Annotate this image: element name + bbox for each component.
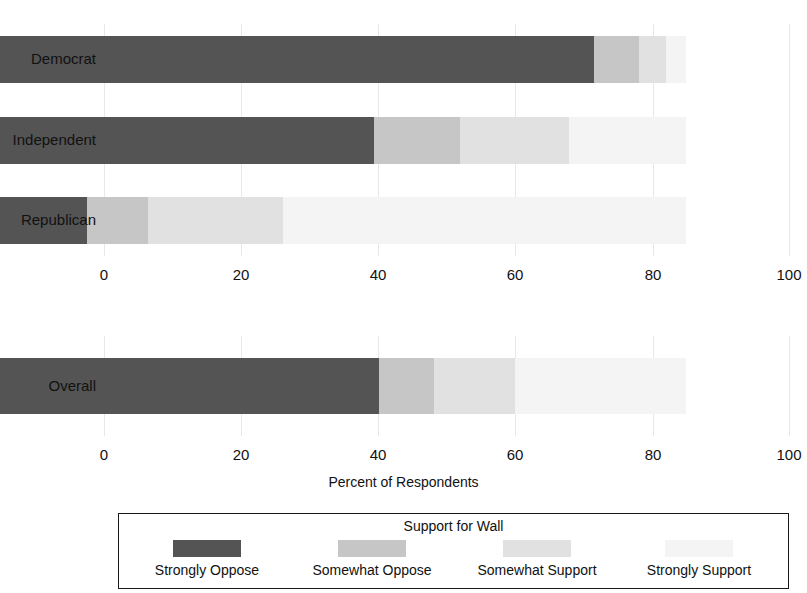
legend-item-label: Strongly Support — [619, 562, 779, 578]
chart-page: { "chart_data": { "type": "bar", "orient… — [0, 0, 807, 593]
bar-segment-strongly-support — [666, 36, 686, 83]
bar-segment-somewhat-support — [460, 117, 570, 164]
legend-item-label: Somewhat Oppose — [292, 562, 452, 578]
legend-swatch-icon — [173, 540, 241, 557]
legend-item-label: Somewhat Support — [457, 562, 617, 578]
x-tick-label: 100 — [776, 446, 801, 463]
x-tick-label: 60 — [507, 266, 524, 283]
x-tick-label: 0 — [100, 266, 108, 283]
legend-item-strongly-support[interactable]: Strongly Support — [619, 540, 779, 578]
x-tick-label: 60 — [507, 446, 524, 463]
x-tick-label: 0 — [100, 446, 108, 463]
bar-segment-strongly-support — [283, 197, 686, 244]
bar-row-republican — [0, 197, 686, 244]
bar-row-democrat — [0, 36, 686, 83]
x-tick-label: 100 — [776, 266, 801, 283]
category-label-overall: Overall — [0, 378, 96, 393]
x-tick-label: 40 — [370, 446, 387, 463]
legend-title: Support for Wall — [119, 518, 788, 534]
x-tick-label: 20 — [233, 446, 250, 463]
x-axis-top: 0 20 40 60 80 100 — [0, 266, 807, 290]
category-label-independent: Independent — [0, 132, 96, 147]
gridline — [789, 24, 790, 256]
x-axis-bottom: 0 20 40 60 80 100 — [0, 446, 807, 470]
x-tick-label: 80 — [645, 446, 662, 463]
legend-item-somewhat-support[interactable]: Somewhat Support — [457, 540, 617, 578]
chart-panel-overall: Overall — [0, 336, 807, 436]
bar-segment-somewhat-oppose — [87, 197, 148, 244]
bar-segment-strongly-support — [569, 117, 686, 164]
legend-swatch-icon — [338, 540, 406, 557]
bar-segment-somewhat-support — [639, 36, 666, 83]
legend: Support for Wall Strongly Oppose Somewha… — [118, 513, 789, 589]
bar-segment-strongly-support — [515, 358, 686, 414]
x-axis-title: Percent of Respondents — [0, 474, 807, 490]
bar-row-overall — [0, 358, 686, 414]
x-tick-label: 80 — [645, 266, 662, 283]
bar-segment-somewhat-support — [434, 358, 515, 414]
category-label-democrat: Democrat — [0, 51, 96, 66]
legend-swatch-icon — [665, 540, 733, 557]
x-tick-label: 20 — [233, 266, 250, 283]
bar-segment-somewhat-oppose — [379, 358, 435, 414]
x-tick-label: 40 — [370, 266, 387, 283]
gridline — [789, 336, 790, 436]
bar-row-independent — [0, 117, 686, 164]
bar-segment-somewhat-oppose — [374, 117, 460, 164]
legend-item-label: Strongly Oppose — [127, 562, 287, 578]
category-label-republican: Republican — [0, 212, 96, 227]
legend-item-strongly-oppose[interactable]: Strongly Oppose — [127, 540, 287, 578]
bar-segment-somewhat-support — [148, 197, 283, 244]
legend-swatch-icon — [503, 540, 571, 557]
bar-segment-somewhat-oppose — [594, 36, 639, 83]
chart-panel-by-party: Democrat Independent Republican — [0, 24, 807, 256]
legend-item-somewhat-oppose[interactable]: Somewhat Oppose — [292, 540, 452, 578]
